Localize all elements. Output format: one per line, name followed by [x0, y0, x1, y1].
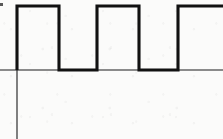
waveform-plot	[0, 0, 223, 139]
figure-root	[0, 0, 223, 139]
square-wave-path	[17, 6, 223, 70]
left-edge-scan-mark-icon	[0, 3, 3, 6]
